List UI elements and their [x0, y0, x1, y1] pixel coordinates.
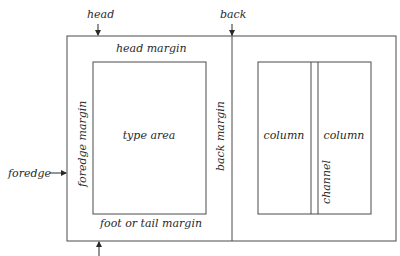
head-label: head [87, 8, 114, 21]
foot-margin-label: foot or tail margin [99, 217, 202, 230]
back-margin-label: back margin [214, 101, 227, 171]
channel-label: channel [320, 160, 333, 204]
page-layout-diagram: head back foredge head margin type area … [0, 0, 400, 256]
foredge-label: foredge [7, 167, 52, 180]
column-right-label: column [324, 129, 365, 142]
back-label: back [220, 8, 247, 21]
type-area-label: type area [123, 129, 176, 142]
foredge-margin-label: foredge margin [76, 101, 89, 188]
head-margin-label: head margin [116, 42, 187, 55]
column-left-label: column [264, 129, 305, 142]
